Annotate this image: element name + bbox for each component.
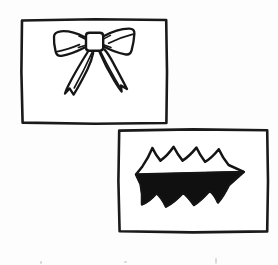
bow-center-knot (86, 33, 103, 51)
line-art-artboard (0, 0, 278, 265)
scan-speck (215, 258, 217, 264)
panel-bow (21, 19, 167, 124)
artwork-canvas (0, 0, 278, 265)
scan-speck (124, 261, 127, 263)
panel-burst (118, 129, 268, 232)
scan-speck (40, 261, 42, 264)
